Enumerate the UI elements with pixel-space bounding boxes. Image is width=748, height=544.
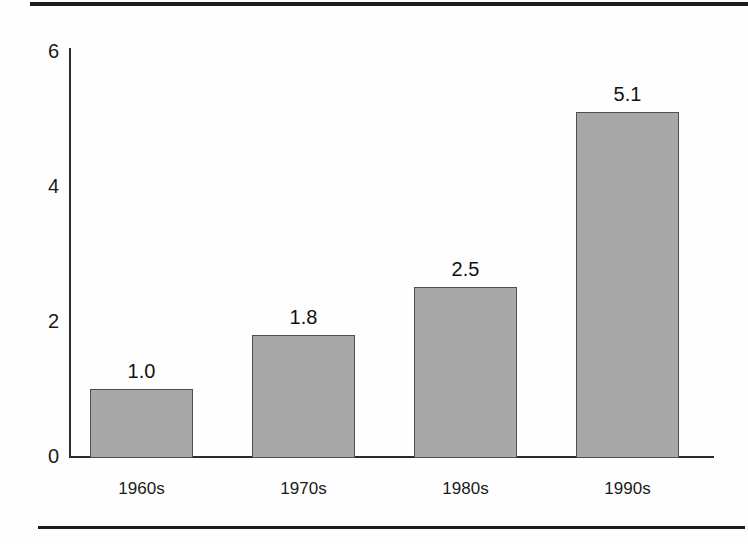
chart-figure: 0246 1.01.82.55.1 1960s1970s1980s1990s [0,0,748,544]
y-axis-tick-label: 0 [19,446,59,466]
bar-value-label: 1.8 [252,307,355,327]
y-axis-line [69,48,71,458]
bottom-divider-rule [38,526,745,529]
bar [576,112,679,458]
y-axis-tick-label: 2 [19,311,59,331]
x-axis-category-label: 1970s [252,480,355,497]
y-axis-tick-label: 4 [19,176,59,196]
y-axis-tick-label: 6 [19,41,59,61]
x-axis-category-label: 1980s [414,480,517,497]
x-axis-category-label: 1990s [576,480,679,497]
bar-value-label: 2.5 [414,259,517,279]
x-axis-category-label: 1960s [90,480,193,497]
bar [90,389,193,459]
bar-value-label: 5.1 [576,84,679,104]
plot-area: 0246 1.01.82.55.1 1960s1970s1980s1990s [0,0,748,544]
bar-value-label: 1.0 [90,361,193,381]
bar [414,287,517,458]
bar [252,335,355,459]
